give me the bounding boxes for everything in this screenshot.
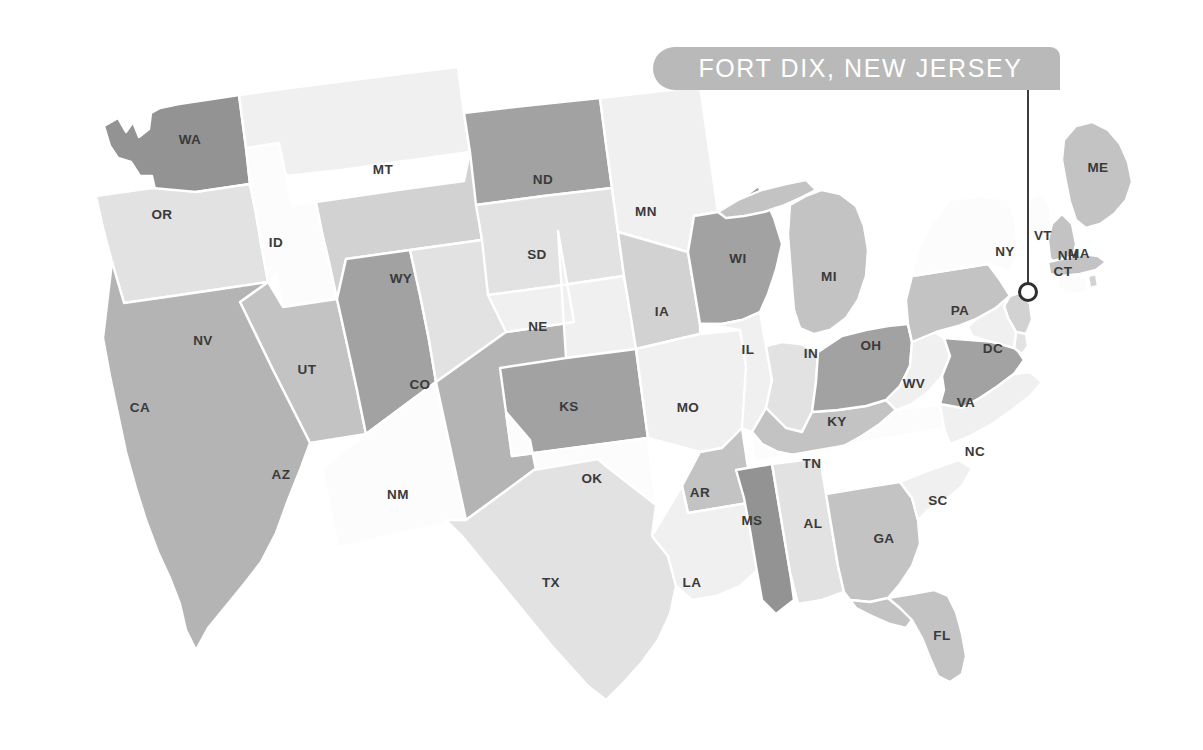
state-mo[interactable] [636, 330, 752, 452]
state-label-sd: SD [527, 247, 547, 262]
state-nd[interactable] [464, 98, 612, 205]
state-label-wy: WY [390, 271, 413, 286]
state-label-ia: IA [655, 304, 669, 319]
state-label-in: IN [804, 346, 818, 361]
state-label-nc: NC [965, 444, 985, 459]
state-label-dc: DC [983, 341, 1003, 356]
map-screenshot-canvas: WAORIDMTWYNVUTCAAZCONMNDSDNEKSOKTXMNIAMO… [0, 0, 1203, 750]
state-label-mt: MT [373, 162, 394, 177]
state-label-nv: NV [193, 333, 213, 348]
state-label-pa: PA [951, 303, 970, 318]
state-label-tn: TN [803, 456, 822, 471]
state-label-al: AL [804, 516, 823, 531]
state-ct[interactable] [1056, 276, 1088, 294]
state-label-ma: MA [1068, 246, 1090, 261]
state-wa[interactable] [104, 95, 250, 198]
state-label-ne: NE [528, 319, 548, 334]
state-label-wv: WV [903, 376, 926, 391]
state-label-tx: TX [542, 575, 560, 590]
state-label-mo: MO [677, 400, 700, 415]
state-label-sc: SC [928, 493, 948, 508]
state-label-la: LA [683, 575, 702, 590]
state-label-vt: VT [1034, 228, 1052, 243]
us-map-svg[interactable]: WAORIDMTWYNVUTCAAZCONMNDSDNEKSOKTXMNIAMO… [0, 0, 1203, 750]
state-label-ms: MS [741, 513, 762, 528]
state-label-az: AZ [272, 467, 291, 482]
leader-line-icon [1027, 90, 1029, 284]
state-mi[interactable] [788, 190, 868, 334]
state-me[interactable] [1062, 122, 1132, 228]
state-label-mi: MI [821, 269, 837, 284]
state-shapes-group[interactable] [96, 67, 1132, 700]
callout-banner[interactable]: FORT DIX, NEW JERSEY [653, 47, 1060, 90]
state-label-nm: NM [387, 487, 409, 502]
state-label-ut: UT [298, 362, 317, 377]
state-label-ks: KS [559, 399, 579, 414]
state-label-wa: WA [179, 132, 202, 147]
state-label-il: IL [742, 342, 755, 357]
state-label-oh: OH [860, 338, 881, 353]
callout-label: FORT DIX, NEW JERSEY [698, 56, 1022, 81]
state-label-nd: ND [533, 172, 553, 187]
state-label-or: OR [151, 207, 172, 222]
state-ny[interactable] [912, 196, 1018, 276]
state-ri[interactable] [1088, 274, 1098, 288]
us-choropleth-map[interactable]: WAORIDMTWYNVUTCAAZCONMNDSDNEKSOKTXMNIAMO… [0, 0, 1203, 750]
state-label-ok: OK [581, 471, 602, 486]
state-label-mn: MN [635, 204, 657, 219]
state-label-wi: WI [729, 251, 746, 266]
state-label-ny: NY [995, 244, 1015, 259]
state-label-me: ME [1087, 160, 1108, 175]
state-label-ga: GA [873, 531, 894, 546]
state-label-ca: CA [130, 400, 150, 415]
state-label-co: CO [409, 377, 430, 392]
location-dot-icon[interactable] [1018, 282, 1038, 302]
state-label-fl: FL [933, 628, 950, 643]
state-fl[interactable] [888, 590, 966, 682]
state-label-ct: CT [1054, 264, 1073, 279]
state-label-ar: AR [690, 485, 710, 500]
state-label-id: ID [269, 235, 283, 250]
state-label-va: VA [957, 395, 976, 410]
state-label-ky: KY [827, 414, 847, 429]
